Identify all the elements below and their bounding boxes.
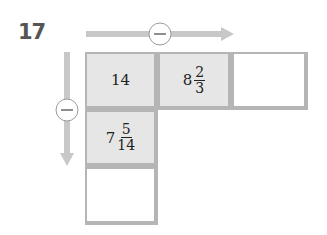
denominator: 3	[195, 81, 204, 96]
cell-top-middle: 8 2 3	[158, 52, 232, 110]
answer-cell-bottom-left[interactable]	[85, 167, 158, 225]
vertical-minus-arrow-icon	[56, 52, 78, 166]
fraction: 2 3	[194, 65, 205, 96]
operation-arrows	[0, 0, 327, 235]
cell-middle-left: 7 5 14	[85, 110, 158, 167]
answer-cell-top-right[interactable]	[232, 52, 308, 110]
numerator: 5	[121, 122, 132, 138]
mixed-number: 7 5 14	[106, 122, 135, 153]
cell-top-left: 14	[85, 52, 158, 110]
numerator: 2	[194, 65, 205, 81]
fraction: 5 14	[117, 122, 135, 153]
denominator: 14	[117, 138, 135, 153]
horizontal-minus-arrow-icon	[86, 23, 234, 45]
whole-part: 7	[106, 129, 116, 147]
whole-part: 8	[183, 71, 193, 89]
cell-value: 14	[111, 71, 130, 89]
mixed-number: 8 2 3	[183, 65, 205, 96]
